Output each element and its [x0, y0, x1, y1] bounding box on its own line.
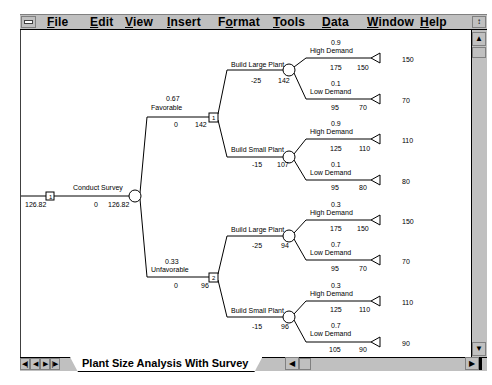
svg-text:95: 95: [331, 184, 339, 191]
svg-text:80: 80: [402, 178, 410, 185]
svg-text:0.1: 0.1: [331, 80, 341, 87]
svg-text:70: 70: [402, 97, 410, 104]
menu-file[interactable]: File: [47, 15, 68, 30]
sheet-tab-bar: ◀| ◀ ▶ |▶ Plant Size Analysis With Surve…: [20, 357, 487, 371]
unfavorable-ev: 96: [201, 282, 209, 289]
favorable-ev: 142: [195, 121, 207, 128]
svg-text:95: 95: [331, 265, 339, 272]
svg-text:Low Demand: Low Demand: [310, 88, 351, 95]
menu-bar: File Edit View Insert Format Tools Data …: [20, 14, 487, 30]
svg-text:107: 107: [277, 161, 289, 168]
survey-chance-node[interactable]: [129, 190, 141, 202]
svg-text:High Demand: High Demand: [310, 290, 353, 298]
menu-format[interactable]: Format: [218, 15, 260, 30]
svg-text:175: 175: [330, 225, 342, 232]
favorable-label: Favorable: [151, 104, 182, 111]
survey-label: Conduct Survey: [73, 184, 123, 192]
svg-text:-15: -15: [252, 161, 262, 168]
svg-text:150: 150: [402, 218, 414, 225]
next-sheet-button[interactable]: ▶: [40, 358, 50, 370]
svg-text:-15: -15: [252, 323, 262, 330]
menu-help[interactable]: Help: [420, 15, 447, 30]
control-menu-icon: [24, 20, 33, 24]
survey-cost: 0: [94, 201, 98, 208]
unfavorable-payoff: 0: [174, 282, 178, 289]
svg-text:0.3: 0.3: [331, 201, 341, 208]
svg-text:-25: -25: [252, 242, 262, 249]
scroll-up-button[interactable]: ▲: [472, 32, 486, 46]
svg-text:80: 80: [359, 184, 367, 191]
first-sheet-button[interactable]: ◀|: [20, 358, 30, 370]
svg-text:110: 110: [402, 299, 413, 306]
svg-text:95: 95: [331, 104, 339, 111]
svg-text:0.9: 0.9: [331, 39, 341, 46]
svg-text:96: 96: [281, 323, 289, 330]
svg-text:94: 94: [281, 242, 289, 249]
svg-text:150: 150: [357, 64, 369, 71]
svg-text:125: 125: [330, 306, 342, 313]
control-menu-button[interactable]: [21, 16, 36, 28]
vertical-scrollbar[interactable]: ▲ ▼: [471, 30, 487, 357]
svg-text:142: 142: [278, 77, 290, 84]
svg-text:110: 110: [359, 145, 370, 152]
decision-tree: 1 1 2 126.82 Conduct Survey 0 126.82 0.6…: [21, 30, 472, 357]
last-sheet-button[interactable]: |▶: [50, 358, 60, 370]
svg-text:110: 110: [359, 306, 370, 313]
svg-text:-25: -25: [251, 77, 261, 84]
svg-text:150: 150: [357, 225, 369, 232]
svg-text:High Demand: High Demand: [310, 47, 353, 55]
svg-text:Low Demand: Low Demand: [310, 330, 351, 337]
menu-view[interactable]: View: [125, 15, 153, 30]
sheet-tab-plant-size[interactable]: Plant Size Analysis With Survey: [70, 357, 262, 372]
worksheet-canvas[interactable]: 1 1 2 126.82 Conduct Survey 0 126.82 0.6…: [20, 30, 472, 357]
unfav-large-label: Build Large Plant: [231, 226, 284, 234]
fav-large-label: Build Large Plant: [231, 61, 284, 69]
unfavorable-label: Unfavorable: [151, 266, 189, 273]
unfav-small-chance-node[interactable]: [283, 311, 295, 323]
svg-text:70: 70: [359, 104, 367, 111]
menu-data[interactable]: Data: [322, 15, 349, 30]
svg-text:0.7: 0.7: [331, 322, 341, 329]
terminal-nodes: [371, 53, 380, 347]
favorable-payoff: 0: [174, 121, 178, 128]
svg-text:0.9: 0.9: [331, 120, 341, 127]
unfav-small-label: Build Small Plant: [231, 307, 284, 314]
root-value: 126.82: [25, 201, 47, 208]
restore-window-button[interactable]: ↕: [472, 16, 486, 28]
unfavorable-prob: 0.33: [165, 258, 179, 265]
svg-text:0.3: 0.3: [331, 282, 341, 289]
svg-text:Low Demand: Low Demand: [310, 249, 351, 256]
svg-text:70: 70: [402, 258, 410, 265]
menu-insert[interactable]: Insert: [167, 15, 201, 30]
menu-window[interactable]: Window: [367, 15, 414, 30]
scroll-right-button[interactable]: ▶: [465, 357, 479, 370]
svg-text:150: 150: [402, 56, 414, 63]
horizontal-scroll-thumb[interactable]: [299, 358, 311, 370]
fav-large-chance-node[interactable]: [283, 64, 295, 76]
svg-text:110: 110: [402, 137, 413, 144]
favorable-prob: 0.67: [166, 95, 180, 102]
horizontal-scrollbar[interactable]: ◀ ▶: [285, 358, 487, 370]
svg-text:90: 90: [359, 346, 367, 353]
svg-text:High Demand: High Demand: [310, 209, 353, 217]
scroll-down-button[interactable]: ▼: [472, 342, 486, 356]
menu-tools[interactable]: Tools: [273, 15, 305, 30]
svg-text:High Demand: High Demand: [310, 128, 353, 136]
svg-text:175: 175: [330, 64, 342, 71]
unfav-large-chance-node[interactable]: [283, 230, 295, 242]
svg-text:105: 105: [329, 346, 341, 353]
svg-text:0.1: 0.1: [331, 161, 341, 168]
survey-ev: 126.82: [108, 201, 130, 208]
menu-edit[interactable]: Edit: [90, 15, 113, 30]
svg-text:90: 90: [402, 340, 410, 347]
fav-small-label: Build Small Plant: [231, 146, 284, 153]
prev-sheet-button[interactable]: ◀: [30, 358, 40, 370]
scroll-left-button[interactable]: ◀: [285, 357, 299, 370]
svg-text:0.7: 0.7: [331, 241, 341, 248]
svg-text:125: 125: [330, 145, 342, 152]
vertical-scroll-thumb[interactable]: [472, 47, 486, 58]
svg-text:Low Demand: Low Demand: [310, 169, 351, 176]
split-box[interactable]: [479, 358, 482, 370]
svg-text:70: 70: [359, 265, 367, 272]
